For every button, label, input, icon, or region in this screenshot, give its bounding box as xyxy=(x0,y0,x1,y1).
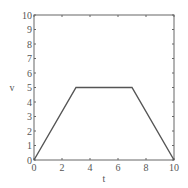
y-tick-label: 1 xyxy=(27,140,32,151)
y-tick-label: 3 xyxy=(27,111,32,122)
y-tick-label: 8 xyxy=(27,39,32,50)
y-tick-label: 7 xyxy=(27,53,32,64)
x-tick-label: 6 xyxy=(116,162,121,173)
x-tick-label: 10 xyxy=(169,162,179,173)
x-tick-label: 2 xyxy=(60,162,65,173)
x-axis-ticks: 0246810 xyxy=(32,15,180,173)
y-tick-label: 10 xyxy=(22,10,32,21)
y-axis-label: v xyxy=(10,82,15,93)
y-tick-label: 0 xyxy=(27,155,32,166)
y-tick-label: 2 xyxy=(27,126,32,137)
y-tick-label: 5 xyxy=(27,82,32,93)
x-axis-label: t xyxy=(103,173,106,184)
y-tick-label: 9 xyxy=(27,24,32,35)
y-tick-label: 4 xyxy=(27,97,32,108)
x-tick-label: 0 xyxy=(32,162,37,173)
x-tick-label: 4 xyxy=(88,162,93,173)
y-tick-label: 6 xyxy=(27,68,32,79)
data-series xyxy=(34,88,174,161)
x-tick-label: 8 xyxy=(144,162,149,173)
chart: 0246810 012345678910 t v xyxy=(0,0,188,188)
series-line xyxy=(34,88,174,161)
